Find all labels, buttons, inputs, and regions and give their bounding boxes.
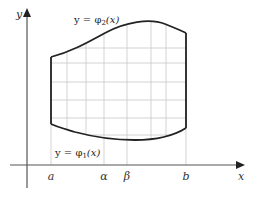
tick-label-beta: β xyxy=(123,170,130,183)
upper-curve-label: y = φ2(x) xyxy=(73,14,119,27)
grid xyxy=(40,10,200,165)
lower-curve-label: y = φ1(x) xyxy=(54,147,100,160)
region-diagram: y = φ2(x) y = φ1(x) y x a α β b xyxy=(0,0,253,200)
tick-label-b: b xyxy=(182,170,189,183)
tick-label-alpha: α xyxy=(100,170,108,183)
x-axis-arrow-icon xyxy=(236,161,245,169)
x-axis-label: x xyxy=(238,170,245,183)
y-axis-label: y xyxy=(15,8,23,21)
axes xyxy=(10,8,245,188)
y-axis-arrow-icon xyxy=(23,8,31,17)
tick-label-a: a xyxy=(48,170,55,183)
